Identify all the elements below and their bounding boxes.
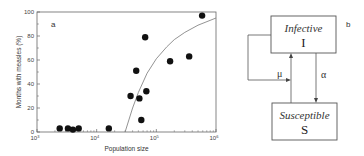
data-point [167,58,173,64]
data-point [186,53,192,59]
data-point [76,125,82,131]
x-tick-label: 106 [210,134,220,142]
x-axis-label: Population size [104,145,148,153]
data-point [136,95,142,101]
data-point [106,125,112,131]
infective-title: Infective [284,22,323,34]
down-arrowhead [314,98,318,103]
x-tick-label: 104 [90,134,100,142]
data-point [138,117,144,123]
mu-arrowhead [286,78,291,82]
panel-label-b: b [346,20,351,29]
x-tick-label: 103 [31,134,41,142]
y-tick-label: 20 [27,105,34,111]
data-point [127,93,133,99]
data-point [142,34,148,40]
panel-label-a: a [51,20,56,29]
data-point [143,88,149,94]
alpha-label: α [321,69,327,80]
data-point [133,68,139,74]
mu-label: μ [277,68,282,79]
y-axis-label: Months with measles (%) [15,36,23,109]
up-arrowhead [289,53,293,58]
infective-symbol: I [301,35,305,50]
y-tick-label: 60 [27,57,34,63]
model-curve [125,18,216,132]
y-tick-label: 80 [27,33,34,39]
susceptible-symbol: S [301,122,308,137]
figure: 020406080100103104105106Population sizeM… [0,0,364,156]
x-tick-label: 105 [150,134,160,142]
data-point [199,12,205,18]
sir-diagram: b Infective I Susceptible S μ α [248,16,351,140]
y-tick-label: 40 [27,81,34,87]
scatter-chart: 020406080100103104105106Population sizeM… [15,9,219,153]
data-point [56,125,62,131]
data-point [70,126,76,132]
susceptible-title: Susceptible [279,109,329,121]
y-tick-label: 100 [24,9,35,15]
